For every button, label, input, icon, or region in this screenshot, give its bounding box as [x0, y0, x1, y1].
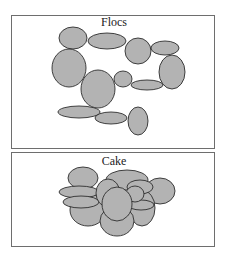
cake-title: Cake [102, 154, 127, 168]
particle-ellipse [114, 71, 132, 87]
particle-ellipse [63, 196, 99, 208]
particle-ellipse [59, 27, 87, 49]
particle-ellipse [95, 112, 127, 124]
particle-ellipse [131, 80, 163, 90]
particle-ellipse [128, 107, 148, 135]
particle-ellipse [125, 38, 151, 64]
particle-ellipse [81, 70, 115, 108]
flocs-vs-cake-diagram: Flocs Cake [0, 0, 226, 259]
particle-ellipse [102, 187, 132, 221]
particle-ellipse [58, 106, 100, 118]
panel-flocs: Flocs [12, 15, 215, 149]
particle-ellipse [88, 33, 126, 49]
particle-ellipse [52, 49, 86, 87]
panel-cake: Cake [12, 153, 215, 247]
particle-ellipse [151, 41, 179, 55]
flocs-title: Flocs [101, 15, 127, 29]
